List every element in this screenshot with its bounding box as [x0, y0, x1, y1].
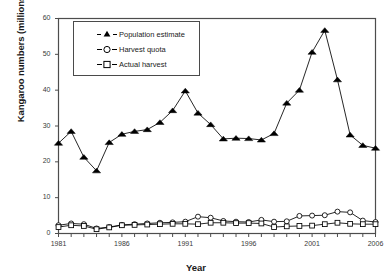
data-point-marker — [195, 214, 200, 219]
data-point-marker — [69, 223, 74, 228]
chart-figure: Kangaroo numbers (millions) Year Populat… — [0, 0, 392, 280]
data-point-marker — [80, 155, 88, 160]
data-point-marker — [56, 225, 61, 230]
series-line — [59, 212, 376, 229]
legend-label: Harvest quota — [118, 45, 166, 54]
y-axis-tick-label: 20 — [33, 157, 51, 164]
data-point-marker — [92, 168, 100, 173]
open-square-marker-icon — [96, 59, 118, 70]
data-point-marker — [120, 223, 125, 228]
data-point-marker — [321, 28, 329, 33]
open-circle-marker-icon — [96, 44, 118, 55]
y-axis-tick-label: 30 — [33, 122, 51, 129]
x-axis-title: Year — [0, 262, 392, 273]
data-point-marker — [295, 88, 303, 93]
data-point-marker — [322, 213, 327, 218]
data-point-marker — [308, 50, 316, 55]
data-point-marker — [196, 222, 201, 227]
y-axis-title: Kangaroo numbers (millions) — [15, 0, 26, 148]
data-point-marker — [348, 221, 353, 226]
data-point-marker — [373, 222, 378, 227]
x-axis-tick-label: 2001 — [295, 240, 329, 247]
data-point-marker — [132, 223, 137, 228]
y-axis-tick-label: 10 — [33, 193, 51, 200]
series-line — [59, 223, 376, 229]
x-axis-tick-label: 1996 — [232, 240, 266, 247]
data-point-marker — [322, 222, 327, 227]
data-point-marker — [348, 210, 353, 215]
chart-legend: Population estimate Harvest quota Actu — [73, 21, 200, 76]
series-actual-harvest — [56, 220, 378, 231]
data-point-marker — [272, 225, 277, 230]
data-point-marker — [170, 221, 175, 226]
data-point-marker — [310, 213, 315, 218]
data-point-marker — [284, 219, 289, 224]
data-point-marker — [208, 220, 213, 225]
data-point-marker — [194, 110, 202, 115]
data-point-marker — [183, 221, 188, 226]
data-point-marker — [94, 227, 99, 232]
data-point-marker — [270, 131, 278, 136]
data-point-marker — [346, 132, 354, 137]
y-axis-tick-label: 60 — [33, 14, 51, 21]
y-axis-tick-label: 40 — [33, 86, 51, 93]
x-axis-tick-label: 1991 — [168, 240, 202, 247]
filled-triangle-marker-icon — [96, 29, 118, 40]
legend-item-population-estimate: Population estimate — [96, 28, 185, 40]
data-point-marker — [335, 220, 340, 225]
data-point-marker — [107, 225, 112, 230]
data-point-marker — [208, 215, 213, 220]
data-point-marker — [234, 221, 239, 226]
data-point-marker — [259, 221, 264, 226]
x-axis-tick-label: 2006 — [359, 240, 392, 247]
x-axis-tick-label: 1986 — [105, 240, 139, 247]
x-axis-tick-label: 1981 — [42, 240, 76, 247]
data-point-marker — [67, 129, 75, 134]
data-point-marker — [297, 213, 302, 218]
data-point-marker — [310, 223, 315, 228]
data-point-marker — [246, 221, 251, 226]
legend-item-harvest-quota: Harvest quota — [96, 43, 166, 55]
data-point-marker — [207, 122, 215, 127]
data-point-marker — [158, 222, 163, 227]
data-point-marker — [283, 100, 291, 105]
legend-item-actual-harvest: Actual harvest — [96, 58, 167, 70]
data-point-marker — [360, 222, 365, 227]
y-axis-tick-label: 50 — [33, 50, 51, 57]
data-point-marker — [284, 224, 289, 229]
data-point-marker — [145, 222, 150, 227]
y-axis-tick-label: 0 — [33, 229, 51, 236]
data-point-marker — [335, 209, 340, 214]
legend-label: Actual harvest — [118, 60, 167, 69]
data-point-marker — [297, 224, 302, 229]
data-point-marker — [221, 220, 226, 225]
data-point-marker — [81, 224, 86, 229]
data-point-marker — [169, 108, 177, 113]
data-point-marker — [272, 219, 277, 224]
data-point-marker — [156, 120, 164, 125]
data-point-marker — [54, 141, 62, 146]
data-point-marker — [181, 88, 189, 93]
data-point-marker — [333, 77, 341, 82]
legend-label: Population estimate — [118, 30, 185, 39]
